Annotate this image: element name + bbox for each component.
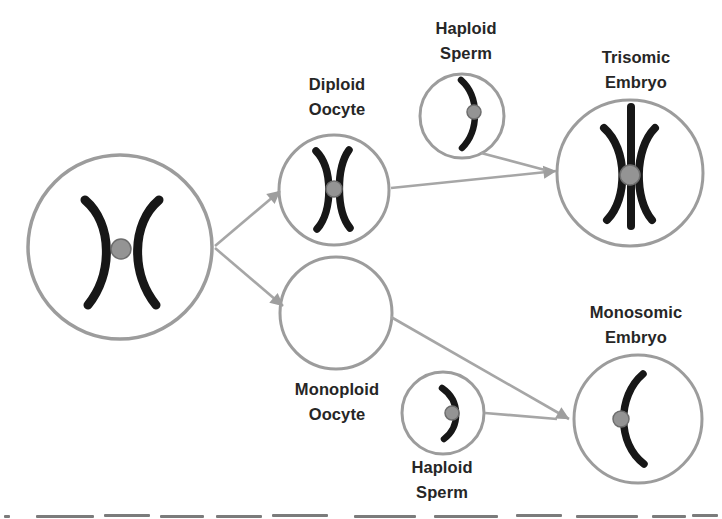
monoploid-oocyte-label: Monoploid Oocyte <box>295 377 379 427</box>
diploid-oocyte-centromere <box>326 181 342 197</box>
trisomic-embryo-label-line1: Trisomic <box>602 45 671 70</box>
trisomic-embryo-label: Trisomic Embryo <box>602 45 671 95</box>
haploid-sperm-bottom-label: Haploid Sperm <box>411 455 472 505</box>
cropped-caption-line <box>0 512 722 519</box>
monosomic-embryo-centromere <box>613 411 629 427</box>
haploid-sperm-top-label: Haploid Sperm <box>435 16 496 66</box>
haploid-sperm-bottom-centromere <box>445 406 459 420</box>
arrow-diploid-oocyte-to-trisomic-embryo <box>391 171 556 188</box>
arrow-sperm-to-monosomic-embryo <box>485 413 557 419</box>
arrow-parent-to-monoploid-oocyte <box>215 248 283 306</box>
monosomic-embryo-label-line2: Embryo <box>590 325 683 350</box>
trisomic-embryo-label-line2: Embryo <box>602 70 671 95</box>
diagram-canvas: Diploid Oocyte Haploid Sperm Trisomic Em… <box>0 0 722 519</box>
monosomic-embryo-label: Monosomic Embryo <box>590 300 683 350</box>
haploid-sperm-top-label-line2: Sperm <box>435 41 496 66</box>
diploid-oocyte-label-line1: Diploid <box>309 72 366 97</box>
diploid-oocyte-label: Diploid Oocyte <box>309 72 366 122</box>
monoploid-oocyte-label-line2: Oocyte <box>295 402 379 427</box>
trisomic-embryo-centromere <box>620 165 640 185</box>
haploid-sperm-top-centromere <box>467 105 481 119</box>
arrow-sperm-to-trisomic-embryo <box>481 153 545 170</box>
arrow-parent-to-diploid-oocyte <box>215 191 280 246</box>
monoploid-oocyte-label-line1: Monoploid <box>295 377 379 402</box>
monosomic-embryo-label-line1: Monosomic <box>590 300 683 325</box>
diploid-oocyte-label-line2: Oocyte <box>309 97 366 122</box>
monoploid-oocyte-circle <box>280 257 392 369</box>
haploid-sperm-top-label-line1: Haploid <box>435 16 496 41</box>
parent-centromere <box>111 239 131 259</box>
haploid-sperm-bottom-label-line2: Sperm <box>411 480 472 505</box>
haploid-sperm-bottom-label-line1: Haploid <box>411 455 472 480</box>
